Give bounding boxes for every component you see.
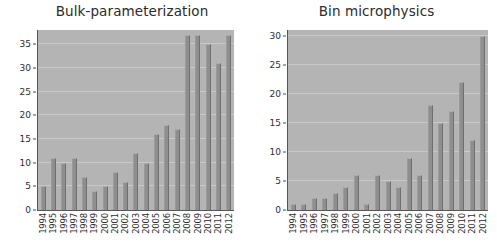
bar xyxy=(154,134,159,210)
x-axis-tick-label: 1995 xyxy=(300,213,309,234)
y-axis-tick-label: 30 xyxy=(270,31,281,41)
bar-slot xyxy=(110,30,120,210)
bar xyxy=(61,163,66,210)
x-axis-tick-label: 2006 xyxy=(415,213,424,234)
x-axis-tick-label: 2003 xyxy=(384,213,393,234)
y-axis-tick-mark xyxy=(283,151,286,152)
x-axis-tick-label: 2005 xyxy=(405,213,414,234)
x-axis-tick-slot: 2012 xyxy=(478,211,489,247)
x-axis-tick-label: 2007 xyxy=(173,213,182,234)
bar-slot xyxy=(100,30,110,210)
bar xyxy=(375,175,380,210)
x-axis-tick-slot: 1994 xyxy=(38,211,48,247)
x-axis-tick-label: 1996 xyxy=(60,213,69,234)
y-axis-tick-mark xyxy=(283,35,286,36)
y-axis-tick-label: 30 xyxy=(20,63,31,73)
y-axis-tick-mark xyxy=(283,180,286,181)
x-axis-tick-label: 2009 xyxy=(194,213,203,234)
figure-container: Bulk-parameterization 05101520253035 199… xyxy=(0,0,497,247)
x-axis-tick-slot: 1998 xyxy=(330,211,341,247)
x-axis-tick-slot: 1996 xyxy=(309,211,320,247)
x-axis-tick-slot: 1995 xyxy=(299,211,310,247)
bar xyxy=(386,181,391,210)
x-axis-tick-slot: 2012 xyxy=(224,211,234,247)
bar xyxy=(195,35,200,210)
bar xyxy=(364,204,369,210)
x-axis-tick-slot: 1997 xyxy=(320,211,331,247)
bar-slot xyxy=(478,30,488,210)
y-axis-tick-mark xyxy=(33,67,36,68)
x-axis-tick-slot: 2004 xyxy=(141,211,151,247)
bar xyxy=(333,193,338,210)
y-axis-tick-label: 0 xyxy=(25,205,31,215)
y-axis-tick-mark xyxy=(283,122,286,123)
bar-slot xyxy=(393,30,404,210)
x-axis-tick-label: 1999 xyxy=(342,213,351,234)
bar xyxy=(82,177,87,210)
x-axis-tick-label: 2011 xyxy=(468,213,477,234)
bar-slot xyxy=(162,30,172,210)
bar-slot xyxy=(414,30,425,210)
x-axis-tick-slot: 2000 xyxy=(351,211,362,247)
y-axis-tick-label: 20 xyxy=(20,110,31,120)
y-axis-tick-mark xyxy=(283,93,286,94)
x-axis-tick-slot: 1996 xyxy=(59,211,69,247)
x-axis-tick-label: 1996 xyxy=(310,213,319,234)
bar-slot xyxy=(457,30,468,210)
x-axis-tick-label: 2011 xyxy=(214,213,223,234)
x-axis-left: 1994199519961997199819992000200120022003… xyxy=(38,211,234,247)
bar xyxy=(396,187,401,210)
x-axis-tick-label: 2004 xyxy=(142,213,151,234)
bar-slot xyxy=(299,30,310,210)
bar-slot xyxy=(425,30,436,210)
y-axis-tick-mark xyxy=(33,138,36,139)
bar xyxy=(144,163,149,210)
y-axis-tick-label: 10 xyxy=(270,147,281,157)
bar-slot xyxy=(79,30,89,210)
x-axis-tick-label: 2010 xyxy=(458,213,467,234)
x-axis-tick-slot: 1999 xyxy=(341,211,352,247)
x-axis-tick-slot: 2004 xyxy=(393,211,404,247)
bar-slot xyxy=(90,30,100,210)
bar-series-right xyxy=(288,30,488,210)
bar xyxy=(312,198,317,210)
y-axis-tick-label: 35 xyxy=(20,39,31,49)
bar-slot xyxy=(131,30,141,210)
x-axis-tick-label: 2001 xyxy=(111,213,120,234)
x-axis-tick-label: 1994 xyxy=(289,213,298,234)
y-axis-tick-mark xyxy=(33,44,36,45)
x-axis-tick-slot: 2001 xyxy=(362,211,373,247)
bar xyxy=(175,129,180,210)
bar xyxy=(123,182,128,210)
bar-slot xyxy=(69,30,79,210)
bar xyxy=(51,158,56,210)
bar-slot xyxy=(404,30,415,210)
plot-area-wrap-left xyxy=(38,30,234,210)
chart-title-right: Bin microphysics xyxy=(250,3,497,19)
x-axis-tick-slot: 2005 xyxy=(151,211,161,247)
bar xyxy=(428,105,433,210)
y-axis-tick-label: 5 xyxy=(275,176,281,186)
x-axis-tick-slot: 2003 xyxy=(383,211,394,247)
bar-slot xyxy=(288,30,299,210)
bar-slot xyxy=(203,30,213,210)
bar xyxy=(72,158,77,210)
bar-slot xyxy=(383,30,394,210)
y-axis-tick-label: 15 xyxy=(270,118,281,128)
chart-title-left: Bulk-parameterization xyxy=(0,3,250,19)
x-axis-tick-slot: 2010 xyxy=(457,211,468,247)
bar-slot xyxy=(151,30,161,210)
x-axis-tick-label: 2010 xyxy=(204,213,213,234)
bar-slot xyxy=(48,30,58,210)
x-axis-tick-label: 2000 xyxy=(101,213,110,234)
x-axis-tick-slot: 2000 xyxy=(100,211,110,247)
bar-slot xyxy=(351,30,362,210)
y-axis-tick-mark xyxy=(33,162,36,163)
x-axis-right: 1994199519961997199819992000200120022003… xyxy=(288,211,488,247)
bar-slot xyxy=(330,30,341,210)
x-axis-tick-label: 2009 xyxy=(447,213,456,234)
x-axis-tick-slot: 1999 xyxy=(90,211,100,247)
plot-area-right xyxy=(288,30,488,210)
bar-slot xyxy=(224,30,234,210)
y-axis-tick-mark xyxy=(33,115,36,116)
